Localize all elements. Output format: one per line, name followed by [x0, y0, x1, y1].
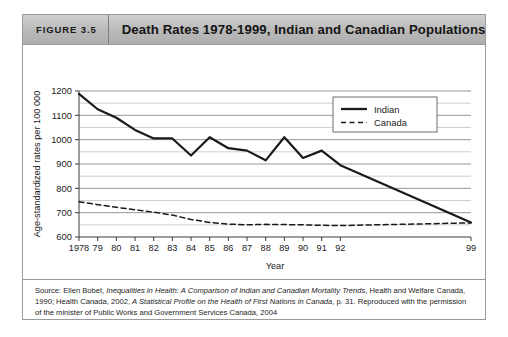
x-axis-tick-label: 85 — [205, 243, 215, 253]
x-axis-tick-label: 1978 — [69, 243, 89, 253]
line-chart: 600700800900100011001200 197879808182838… — [23, 45, 485, 281]
x-axis-tick-labels: 1978798081828384858687888990919299 — [69, 243, 476, 253]
y-axis-tick-label: 600 — [56, 231, 72, 242]
figure-card: FIGURE 3.5 Death Rates 1978-1999, Indian… — [22, 14, 486, 320]
figure-number-label: FIGURE 3.5 — [23, 15, 109, 44]
x-axis-tick-label: 80 — [111, 243, 121, 253]
y-axis-tick-label: 800 — [56, 183, 72, 194]
y-axis-tick-label: 1000 — [51, 134, 72, 145]
x-axis-title: Year — [266, 261, 285, 271]
x-axis-tick-label: 81 — [130, 243, 140, 253]
y-axis-tick-label: 1100 — [52, 110, 72, 121]
source-note: Source: Ellen Bobet, Inequalities in Hea… — [23, 279, 485, 319]
source-prefix: Source: Ellen Bobet, — [35, 286, 106, 295]
series-line-canada — [79, 202, 471, 226]
x-axis-tick-label: 99 — [466, 243, 476, 253]
x-axis-tick-label: 91 — [317, 243, 327, 253]
source-note-text: Source: Ellen Bobet, Inequalities in Hea… — [35, 285, 473, 318]
y-axis-tick-labels: 600700800900100011001200 — [51, 85, 72, 242]
x-axis-tick-label: 83 — [167, 243, 177, 253]
figure-title: Death Rates 1978-1999, Indian and Canadi… — [109, 15, 496, 44]
x-axis-tick-label: 88 — [261, 243, 271, 253]
chart-plot-region: 600700800900100011001200 197879808182838… — [23, 45, 485, 281]
figure-header: FIGURE 3.5 Death Rates 1978-1999, Indian… — [23, 15, 485, 45]
y-axis-ticks — [75, 91, 79, 237]
x-axis-tick-label: 87 — [242, 243, 252, 253]
x-axis-tick-label: 92 — [335, 243, 345, 253]
x-axis-tick-label: 84 — [186, 243, 196, 253]
y-axis-tick-label: 900 — [56, 158, 72, 169]
x-axis-ticks — [79, 237, 471, 241]
y-axis-tick-label: 700 — [56, 207, 72, 218]
legend-label-indian: Indian — [374, 104, 400, 115]
x-axis-tick-label: 90 — [298, 243, 308, 253]
x-axis-tick-label: 79 — [93, 243, 103, 253]
legend-label-canada: Canada — [374, 117, 408, 128]
y-axis-title: Age-standardized rates per 100 000 — [32, 91, 42, 238]
y-axis-tick-label: 1200 — [51, 85, 72, 96]
x-axis-tick-label: 86 — [223, 243, 233, 253]
x-axis-tick-label: 82 — [149, 243, 159, 253]
chart-legend: Indian Canada — [333, 97, 437, 132]
x-axis-tick-label: 89 — [279, 243, 289, 253]
source-italic-title-2: A Statistical Profile on the Health of F… — [132, 297, 332, 306]
source-italic-title-1: Inequalities in Health: A Comparison of … — [106, 286, 365, 295]
